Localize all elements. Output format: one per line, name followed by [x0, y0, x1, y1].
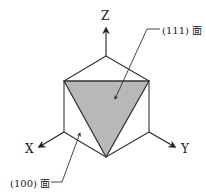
z-axis-label: Z: [101, 9, 109, 23]
y-axis-label: Y: [181, 142, 189, 156]
face-111-triangle: [64, 81, 149, 157]
face-111-label: (111) 面: [162, 22, 202, 37]
crystal-plane-diagram: Z X Y (111) 面 (100) 面: [0, 0, 206, 194]
face-100-label: (100) 面: [10, 175, 50, 190]
x-axis-arrow: [39, 132, 64, 147]
face-100-leader: [51, 133, 80, 182]
y-axis-arrow: [149, 132, 175, 147]
x-axis-label: X: [25, 142, 34, 156]
